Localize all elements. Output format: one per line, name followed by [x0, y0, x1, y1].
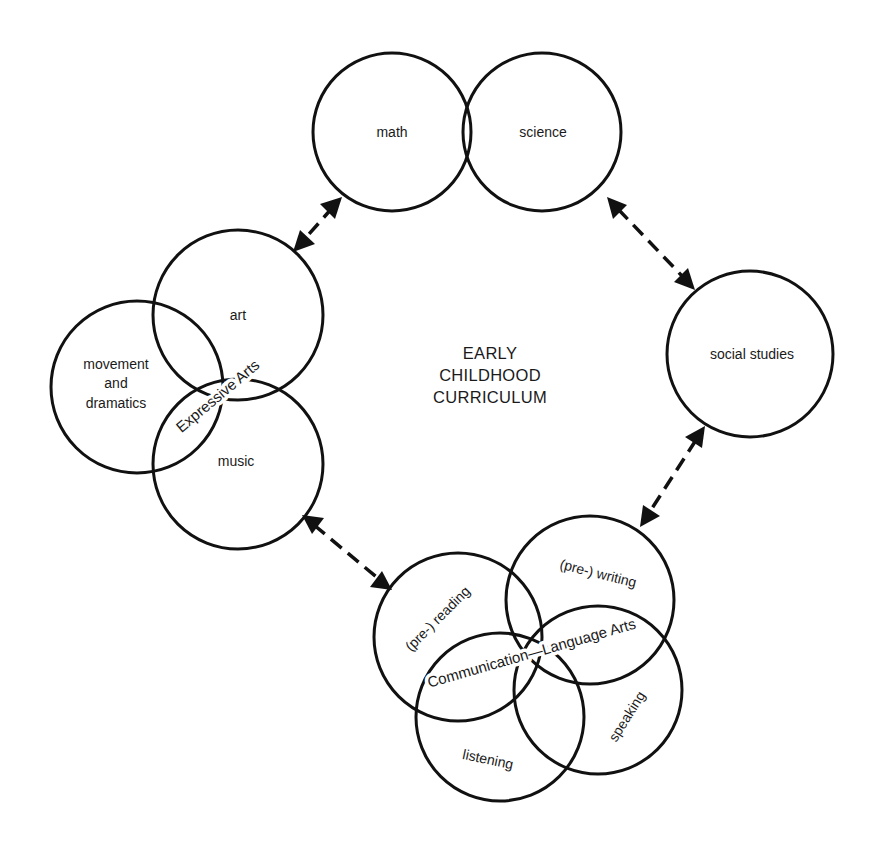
listening-label: listening: [461, 746, 515, 772]
reading-circle: [374, 553, 542, 721]
science-label: science: [519, 124, 567, 140]
music-label: music: [218, 453, 255, 469]
math-label: math: [376, 124, 407, 140]
communication-cluster: (pre-) reading (pre-) writing listening …: [374, 516, 682, 801]
art-label: art: [230, 307, 246, 323]
center-title: EARLY CHILDHOOD CURRICULUM: [433, 344, 547, 406]
connection-music-reading: [302, 515, 392, 590]
arrowhead-icon: [640, 505, 660, 527]
movement-label-line3: dramatics: [86, 395, 147, 411]
title-line-2: CHILDHOOD: [439, 366, 541, 384]
movement-circle: [51, 301, 223, 473]
curriculum-diagram: math science social studies art movement…: [0, 0, 876, 851]
title-line-1: EARLY: [463, 344, 517, 362]
movement-label-line2: and: [104, 375, 127, 391]
connection-math-art: [293, 197, 342, 252]
speaking-label: speaking: [605, 688, 648, 744]
connection-social-writing: [640, 426, 705, 527]
movement-label-line1: movement: [83, 356, 148, 372]
title-line-3: CURRICULUM: [433, 388, 547, 406]
connection-science-social: [607, 197, 695, 290]
arrowhead-icon: [674, 268, 695, 290]
writing-label: (pre-) writing: [558, 556, 638, 591]
expressive-arts-cluster: art movement and dramatics music Express…: [51, 230, 323, 549]
social-studies-label: social studies: [710, 346, 794, 362]
